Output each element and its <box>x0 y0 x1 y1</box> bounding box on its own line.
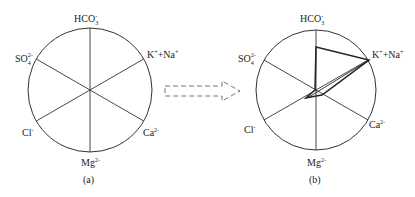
label-mg-a: Mg2- <box>81 157 100 168</box>
ion-radar-diagram: HCO3- K++Na+ Ca2- Mg2- Cl- SO42- (a) HCO… <box>0 0 415 197</box>
label-kna-b: K++Na+ <box>372 49 404 60</box>
label-kna-a: K++Na+ <box>147 49 179 60</box>
label-cl-b: Cl- <box>244 124 255 135</box>
label-mg-b: Mg2- <box>307 157 326 168</box>
label-hco3-a: HCO3- <box>74 13 98 26</box>
caption-a: (a) <box>83 174 94 186</box>
dashed-arrow <box>165 81 240 101</box>
ion-polygon-inner-edge <box>309 60 369 97</box>
label-so4-a: SO42- <box>15 52 33 66</box>
label-cl-a: Cl- <box>22 127 33 138</box>
label-so4-b: SO42- <box>238 52 256 66</box>
label-hco3-b: HCO3- <box>300 13 324 26</box>
ion-polygon <box>306 47 369 98</box>
label-ca-b: Ca2- <box>369 119 385 130</box>
caption-b: (b) <box>309 174 321 186</box>
panel-a: HCO3- K++Na+ Ca2- Mg2- Cl- SO42- (a) <box>15 13 179 186</box>
label-ca-a: Ca2- <box>143 127 159 138</box>
panel-b: HCO3- K++Na+ Ca2- Mg2- Cl- SO42- (b) <box>238 13 404 186</box>
